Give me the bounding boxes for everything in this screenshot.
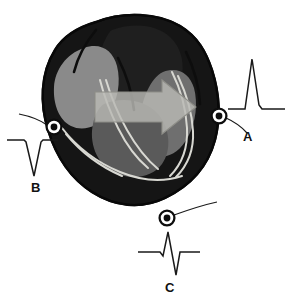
ecg-vector-diagram: A B C (0, 0, 289, 308)
ecg-traces-layer (0, 0, 289, 308)
ecg-trace-c (138, 232, 200, 275)
electrode-a[interactable] (212, 109, 227, 124)
electrode-b[interactable] (47, 120, 62, 135)
lead-label-c: C (165, 281, 175, 294)
leader-line-c (174, 202, 217, 215)
lead-label-b: B (31, 181, 41, 194)
leader-line-b (19, 114, 47, 125)
ecg-trace-a (228, 59, 285, 109)
electrode-c[interactable] (160, 211, 175, 226)
ecg-trace-b (7, 140, 58, 176)
lead-label-a: A (243, 130, 253, 143)
